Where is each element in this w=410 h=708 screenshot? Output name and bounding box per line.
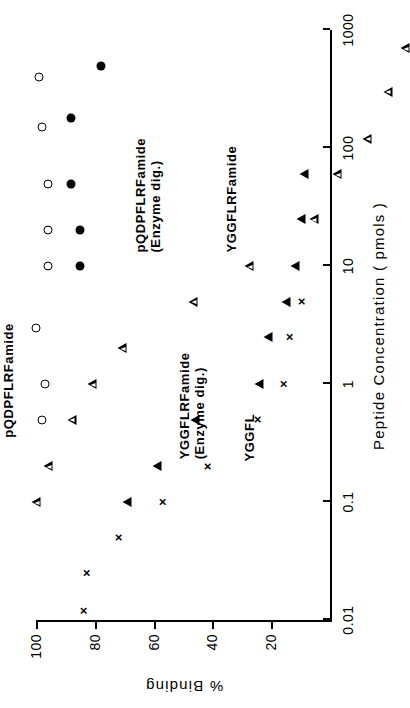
x-axis-line [330,30,332,622]
x-axis-tick-label: 0.1 [340,492,356,513]
data-point [244,261,253,271]
data-point [32,323,41,332]
data-point [43,226,52,235]
y-axis-tick [95,622,97,629]
series-annotation: YGGFL [242,414,257,462]
y-axis-tick [154,622,156,629]
series-annotation: YGGFLRFamide [224,146,239,253]
x-axis-tick-label: 1000 [340,13,356,46]
data-point [67,179,76,188]
data-point [255,379,264,389]
series-annotation: pQDPFLRFamide (Enzyme dig.) [133,138,164,253]
x-axis-tick-label: 1 [340,380,356,388]
data-point [34,72,43,81]
plot-area: ×××××××××pQDPFLRFamidepQDPFLRFamide (Enz… [36,30,330,620]
series-annotation: pQDPFLRFamide [1,323,16,438]
data-point [309,214,318,224]
data-point [401,43,410,53]
data-point: × [296,298,305,306]
y-axis-line [36,620,332,622]
data-point: × [81,569,90,577]
data-point [43,179,52,188]
data-point: × [202,463,211,471]
data-point [37,415,46,424]
data-point [32,497,41,507]
y-axis-tick [36,622,38,629]
data-point [117,343,126,353]
x-axis-tick-label: 100 [340,136,356,161]
data-point: × [278,380,287,388]
data-point [76,262,85,271]
y-axis-tick-label: 100 [28,634,44,659]
y-axis-tick-label: 40 [204,634,220,651]
x-axis-tick-label: 0.01 [340,605,356,634]
data-point [76,226,85,235]
data-point [123,497,132,507]
y-axis-tick-label: 80 [87,634,103,651]
data-point [37,123,46,132]
y-axis-tick-label: 60 [146,634,162,651]
data-point [43,461,52,471]
data-point [188,297,197,307]
data-point: × [114,534,123,542]
data-point [333,169,342,179]
data-point [40,380,49,389]
y-axis-tick [212,622,214,629]
data-point [290,261,299,271]
data-point [67,415,76,425]
data-point [296,214,305,224]
data-point: × [284,333,293,341]
x-axis-title: Peptide Concentration ( pmols ) [370,202,387,450]
data-point: × [158,498,167,506]
data-point [88,379,97,389]
x-axis-tick-label: 10 [340,258,356,275]
y-axis-title: % Binding [145,678,223,695]
data-point [96,61,105,70]
data-point [264,332,273,342]
data-point [299,169,308,179]
series-annotation: YGGFLRFamide (Enzyme dig.) [177,352,208,459]
data-point [43,262,52,271]
y-axis-tick-label: 20 [263,634,279,651]
data-point: × [79,607,88,615]
data-point [67,113,76,122]
data-point [362,134,371,144]
data-point [152,461,161,471]
y-axis-tick [271,622,273,629]
data-point [383,87,392,97]
data-point [281,297,290,307]
